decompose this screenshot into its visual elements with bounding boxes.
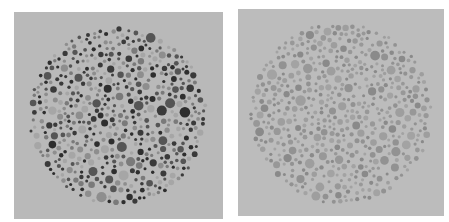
dot [145,157,148,160]
dot [78,120,81,123]
dot [288,101,291,104]
dot [290,41,295,46]
dot [288,139,293,144]
dot [335,183,341,189]
dot [254,107,257,110]
dot [283,46,286,49]
dot [146,133,149,136]
dot [48,106,56,114]
dot [76,60,80,64]
dot [364,77,368,81]
dot [372,75,375,78]
dot [300,107,304,111]
dot [133,121,137,125]
dot [402,141,411,150]
dot [67,120,70,123]
dot [150,66,154,70]
dot [121,40,126,45]
dot [304,148,309,153]
dot [352,38,357,43]
dot [387,144,390,147]
dot [116,26,121,31]
dot [170,173,176,179]
dot [370,51,380,61]
dot [280,99,283,102]
dot [56,65,59,68]
dot [65,43,68,46]
dot [323,47,326,50]
dot [52,172,55,175]
dot [376,82,380,86]
dot [322,136,326,140]
dot [157,97,161,101]
dot [103,103,106,106]
dot [98,52,103,57]
dot [313,39,317,43]
dot [264,88,268,92]
dot [267,81,271,85]
dot [104,94,107,97]
dot [357,130,364,137]
dot [370,152,376,158]
dot [317,25,321,29]
dot [119,162,124,167]
dot [156,123,161,128]
dot [169,134,174,139]
dot [98,63,103,68]
dot [350,132,354,136]
dot [310,104,313,107]
dot [335,59,338,62]
dot [372,174,375,177]
dot [418,113,422,117]
dot [111,155,114,158]
dot [192,151,198,157]
dot [53,59,56,62]
dot [361,178,364,181]
dot [399,56,406,63]
dot [37,86,40,89]
dot [267,113,271,117]
dot [417,134,420,137]
dot [319,100,324,105]
dot [383,72,386,75]
dot [282,127,285,130]
dot [391,82,394,85]
dot [269,153,272,156]
dot [367,104,370,107]
dot [190,72,196,78]
dot [109,52,114,57]
dot [123,182,127,186]
dot [145,101,148,104]
dot [180,86,184,90]
dot [66,133,71,138]
dot [117,72,123,78]
dot [402,124,406,128]
dot [367,48,371,52]
dot [342,164,348,170]
dot [151,51,154,54]
dot [261,82,265,86]
dot [163,178,166,181]
dot [300,31,305,36]
dot [390,86,393,89]
dot [171,76,177,82]
dot [297,140,300,143]
dot [327,114,330,117]
dot [157,106,167,116]
dot [191,121,196,126]
dot [198,112,201,115]
dot [140,53,145,58]
dot [354,55,358,59]
dot [85,54,88,57]
dot [184,100,188,104]
dot [326,160,330,164]
right-dot-plate [238,9,444,216]
dot [191,103,194,106]
dot [398,100,401,103]
dot [351,102,356,107]
dot [93,36,96,39]
dot [61,133,66,138]
dot [381,125,385,129]
dot [363,195,366,198]
dot [401,90,406,95]
